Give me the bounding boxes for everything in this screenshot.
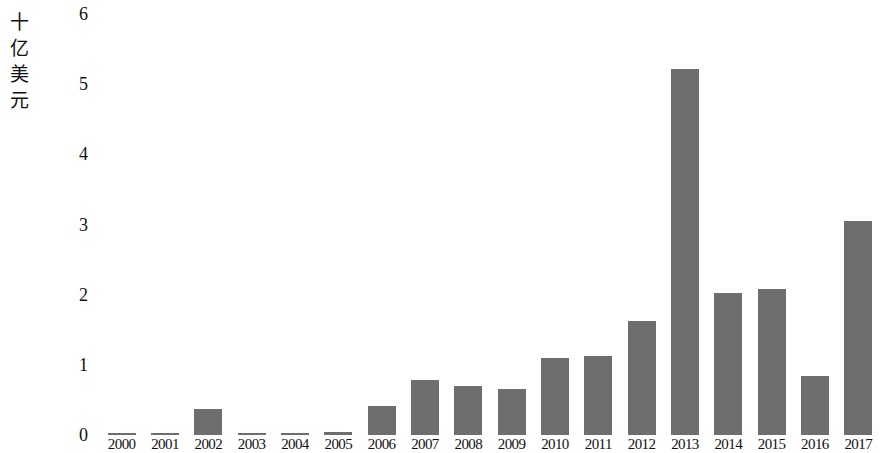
bar-cell bbox=[577, 14, 620, 435]
bar bbox=[151, 433, 179, 436]
bar-cell bbox=[663, 14, 706, 435]
bar-cell bbox=[750, 14, 793, 435]
bar-cell bbox=[360, 14, 403, 435]
y-axis-tick-label: 3 bbox=[60, 216, 88, 234]
x-axis-tick-label: 2017 bbox=[837, 436, 880, 453]
bar-cell bbox=[143, 14, 186, 435]
plot-area bbox=[100, 14, 880, 435]
x-axis-tick-label: 2008 bbox=[447, 436, 490, 453]
bar bbox=[584, 356, 612, 435]
bar bbox=[281, 433, 309, 436]
bar-cell bbox=[793, 14, 836, 435]
bar bbox=[368, 406, 396, 435]
x-axis-tick-label: 2002 bbox=[187, 436, 230, 453]
x-axis-tick-labels: 2000200120022003200420052006200720082009… bbox=[100, 436, 880, 453]
bar-cell bbox=[620, 14, 663, 435]
x-axis-tick-label: 2005 bbox=[317, 436, 360, 453]
x-axis-tick-label: 2007 bbox=[403, 436, 446, 453]
bar bbox=[454, 386, 482, 435]
y-axis-title-char: 元 bbox=[4, 88, 34, 114]
x-axis-tick-label: 2001 bbox=[143, 436, 186, 453]
bar bbox=[324, 432, 352, 436]
bar bbox=[844, 221, 872, 435]
y-axis-tick-label: 5 bbox=[60, 75, 88, 93]
x-axis-tick-label: 2014 bbox=[707, 436, 750, 453]
chart-page: 十亿美元 6543210 200020012002200320042005200… bbox=[0, 0, 880, 453]
bar-cell bbox=[403, 14, 446, 435]
y-axis-title-char: 亿 bbox=[4, 36, 34, 62]
bar-cell bbox=[100, 14, 143, 435]
y-axis-tick-label: 2 bbox=[60, 286, 88, 304]
bar bbox=[801, 376, 829, 435]
bar bbox=[628, 321, 656, 435]
bar-cell bbox=[837, 14, 880, 435]
bar-series bbox=[100, 14, 880, 435]
x-axis-tick-label: 2006 bbox=[360, 436, 403, 453]
bar-cell bbox=[317, 14, 360, 435]
bar bbox=[541, 358, 569, 435]
bar-cell bbox=[533, 14, 576, 435]
bar bbox=[758, 289, 786, 435]
bar bbox=[194, 409, 222, 435]
bar bbox=[498, 389, 526, 435]
bar-cell bbox=[273, 14, 316, 435]
bar bbox=[238, 433, 266, 436]
y-axis-tick-label: 6 bbox=[60, 5, 88, 23]
bar bbox=[108, 433, 136, 436]
bar-cell bbox=[187, 14, 230, 435]
bar-cell bbox=[447, 14, 490, 435]
x-axis-tick-label: 2011 bbox=[577, 436, 620, 453]
bar-cell bbox=[490, 14, 533, 435]
x-axis-tick-label: 2010 bbox=[533, 436, 576, 453]
x-axis-tick-label: 2016 bbox=[793, 436, 836, 453]
y-axis-title: 十亿美元 bbox=[4, 10, 34, 114]
y-axis-title-char: 美 bbox=[4, 62, 34, 88]
bar bbox=[411, 380, 439, 435]
x-axis-tick-label: 2009 bbox=[490, 436, 533, 453]
x-axis-tick-label: 2012 bbox=[620, 436, 663, 453]
bar-cell bbox=[230, 14, 273, 435]
y-axis-tick-label: 4 bbox=[60, 145, 88, 163]
bar bbox=[671, 69, 699, 435]
y-axis-tick-label: 0 bbox=[60, 426, 88, 444]
y-axis-tick-labels: 6543210 bbox=[54, 14, 88, 435]
y-axis-title-char: 十 bbox=[4, 10, 34, 36]
bar-cell bbox=[707, 14, 750, 435]
y-axis-tick-label: 1 bbox=[60, 356, 88, 374]
x-axis-tick-label: 2004 bbox=[273, 436, 316, 453]
bar bbox=[714, 293, 742, 435]
x-axis-tick-label: 2013 bbox=[663, 436, 706, 453]
x-axis-tick-label: 2015 bbox=[750, 436, 793, 453]
x-axis-tick-label: 2000 bbox=[100, 436, 143, 453]
x-axis-tick-label: 2003 bbox=[230, 436, 273, 453]
